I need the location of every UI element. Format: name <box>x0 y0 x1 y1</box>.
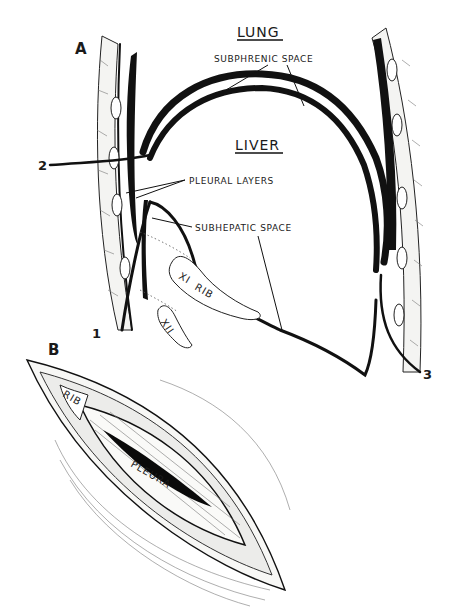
rib-section <box>111 97 121 119</box>
subhepatic-label: SUBHEPATIC SPACE <box>195 223 292 233</box>
rib-xi <box>169 256 260 319</box>
pleural-layers-label: PLEURAL LAYERS <box>189 176 274 186</box>
rib-section <box>397 187 407 209</box>
projection-line <box>140 232 190 258</box>
rib-section <box>387 59 397 81</box>
rib-section <box>109 147 119 169</box>
rib-section <box>394 304 404 326</box>
panel-b: B RIB PLEURA <box>27 341 290 606</box>
anatomical-figure: A XI R <box>0 0 454 610</box>
rib-section <box>112 194 122 216</box>
approach-2-label: 2 <box>38 158 47 173</box>
rib-section <box>397 247 407 269</box>
liver-label: LIVER <box>235 137 280 153</box>
panel-a-label: A <box>75 40 87 58</box>
panel-a: A XI R <box>38 24 432 382</box>
diaphragm-outer <box>143 74 387 262</box>
lung-label: LUNG <box>237 24 280 40</box>
panel-b-label: B <box>48 341 59 359</box>
approach-3-label: 3 <box>423 367 432 382</box>
subphrenic-label: SUBPHRENIC SPACE <box>214 54 313 64</box>
left-pleural-recess <box>127 52 138 245</box>
rib-section <box>392 114 402 136</box>
approach-1-label: 1 <box>92 326 101 341</box>
rib-section <box>120 257 130 279</box>
